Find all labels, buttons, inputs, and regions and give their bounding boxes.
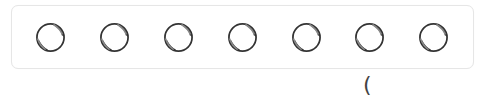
- tennis-ball-icon: [227, 22, 258, 53]
- tennis-ball-icon: [354, 22, 385, 53]
- tennis-ball-6[interactable]: [354, 22, 385, 53]
- tennis-ball-4[interactable]: [227, 22, 258, 53]
- tennis-ball-icon: [418, 22, 449, 53]
- tennis-ball-icon: [99, 22, 130, 53]
- tennis-ball-7[interactable]: [418, 22, 449, 53]
- tennis-ball-1[interactable]: [35, 22, 66, 53]
- tennis-ball-2[interactable]: [99, 22, 130, 53]
- tennis-ball-icon: [163, 22, 194, 53]
- tennis-ball-icon: [35, 22, 66, 53]
- tennis-ball-5[interactable]: [291, 22, 322, 53]
- tennis-ball-icon: [291, 22, 322, 53]
- caption-text: (: [363, 72, 372, 98]
- tennis-ball-3[interactable]: [163, 22, 194, 53]
